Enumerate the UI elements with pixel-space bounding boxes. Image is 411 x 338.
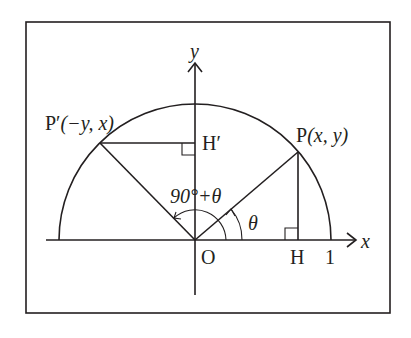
point-P-label: P(x, y) (296, 124, 349, 147)
tick-one-label: 1 (325, 246, 335, 268)
point-H-prime-label: H′ (202, 132, 221, 154)
angle-ninety-plus-theta-label: 90°+θ (170, 185, 221, 207)
angle-theta-label: θ (248, 212, 258, 234)
point-P-prime-label: P′(−y, x) (45, 112, 114, 135)
origin-label: O (201, 246, 215, 268)
point-P-prime-name: P′ (45, 112, 61, 134)
point-P-prime-coords: (−y, x) (61, 112, 115, 135)
x-axis-label: x (360, 230, 370, 252)
point-P-name: P (296, 124, 307, 146)
right-angle-mark-H (285, 228, 298, 240)
right-angle-mark-H-prime (182, 143, 195, 155)
point-H-label: H (290, 246, 304, 268)
y-axis-label: y (188, 40, 199, 63)
point-P-coords: (x, y) (307, 124, 348, 147)
unit-circle-diagram: y x O H 1 H′ P(x, y) P′(−y, x) 90°+θ θ (0, 0, 411, 338)
theta-arc (231, 209, 242, 240)
